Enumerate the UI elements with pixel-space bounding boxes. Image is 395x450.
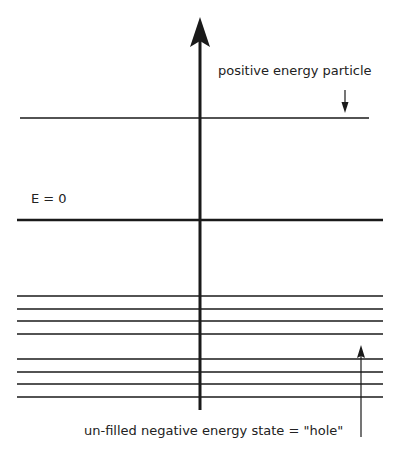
zero-energy-label: E = 0 [31,191,67,206]
down-arrow-icon [342,102,349,113]
hole-label: un-filled negative energy state = "hole" [84,423,343,438]
positive-particle-label: positive energy particle [218,63,372,78]
particle-pointer-arrow [342,90,349,113]
energy-axis [190,17,210,410]
